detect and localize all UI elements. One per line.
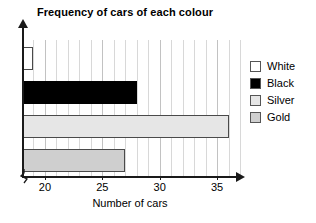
gridline [240, 40, 241, 176]
legend-item-gold[interactable]: Gold [250, 109, 316, 125]
plot-area [22, 40, 240, 176]
x-tick [102, 176, 103, 180]
gridline [171, 40, 172, 176]
x-axis-label: Number of cars [22, 197, 238, 209]
gridline [194, 40, 195, 176]
x-axis-line [22, 176, 238, 178]
legend: WhiteBlackSilverGold [250, 58, 316, 126]
legend-item-silver[interactable]: Silver [250, 92, 316, 108]
legend-label: Black [267, 77, 294, 89]
bar-black [22, 81, 137, 104]
legend-label: Silver [267, 94, 295, 106]
gridline [137, 40, 138, 176]
chart-figure: Frequency of cars of each colour 2025303… [0, 0, 316, 223]
x-axis-arrow-icon [236, 172, 245, 182]
x-tick [217, 176, 218, 180]
x-tick-label: 30 [143, 181, 177, 193]
legend-label: White [267, 60, 295, 72]
y-axis-arrow-icon [18, 19, 28, 28]
legend-item-white[interactable]: White [250, 58, 316, 74]
gridline [148, 40, 149, 176]
x-tick [160, 176, 161, 180]
gridline [183, 40, 184, 176]
chart-title: Frequency of cars of each colour [0, 6, 250, 18]
bar-gold [22, 149, 125, 172]
legend-swatch-icon [250, 95, 261, 106]
x-tick-label: 20 [28, 181, 62, 193]
gridline [125, 40, 126, 176]
x-tick [45, 176, 46, 180]
legend-swatch-icon [250, 112, 261, 123]
gridline [217, 40, 218, 176]
gridline [229, 40, 230, 176]
x-tick-label: 25 [85, 181, 119, 193]
legend-item-black[interactable]: Black [250, 75, 316, 91]
x-tick-label: 35 [200, 181, 234, 193]
bar-silver [22, 115, 229, 138]
y-axis-line [22, 26, 24, 178]
gridline [160, 40, 161, 176]
gridline [206, 40, 207, 176]
legend-swatch-icon [250, 78, 261, 89]
legend-label: Gold [267, 111, 290, 123]
legend-swatch-icon [250, 61, 261, 72]
